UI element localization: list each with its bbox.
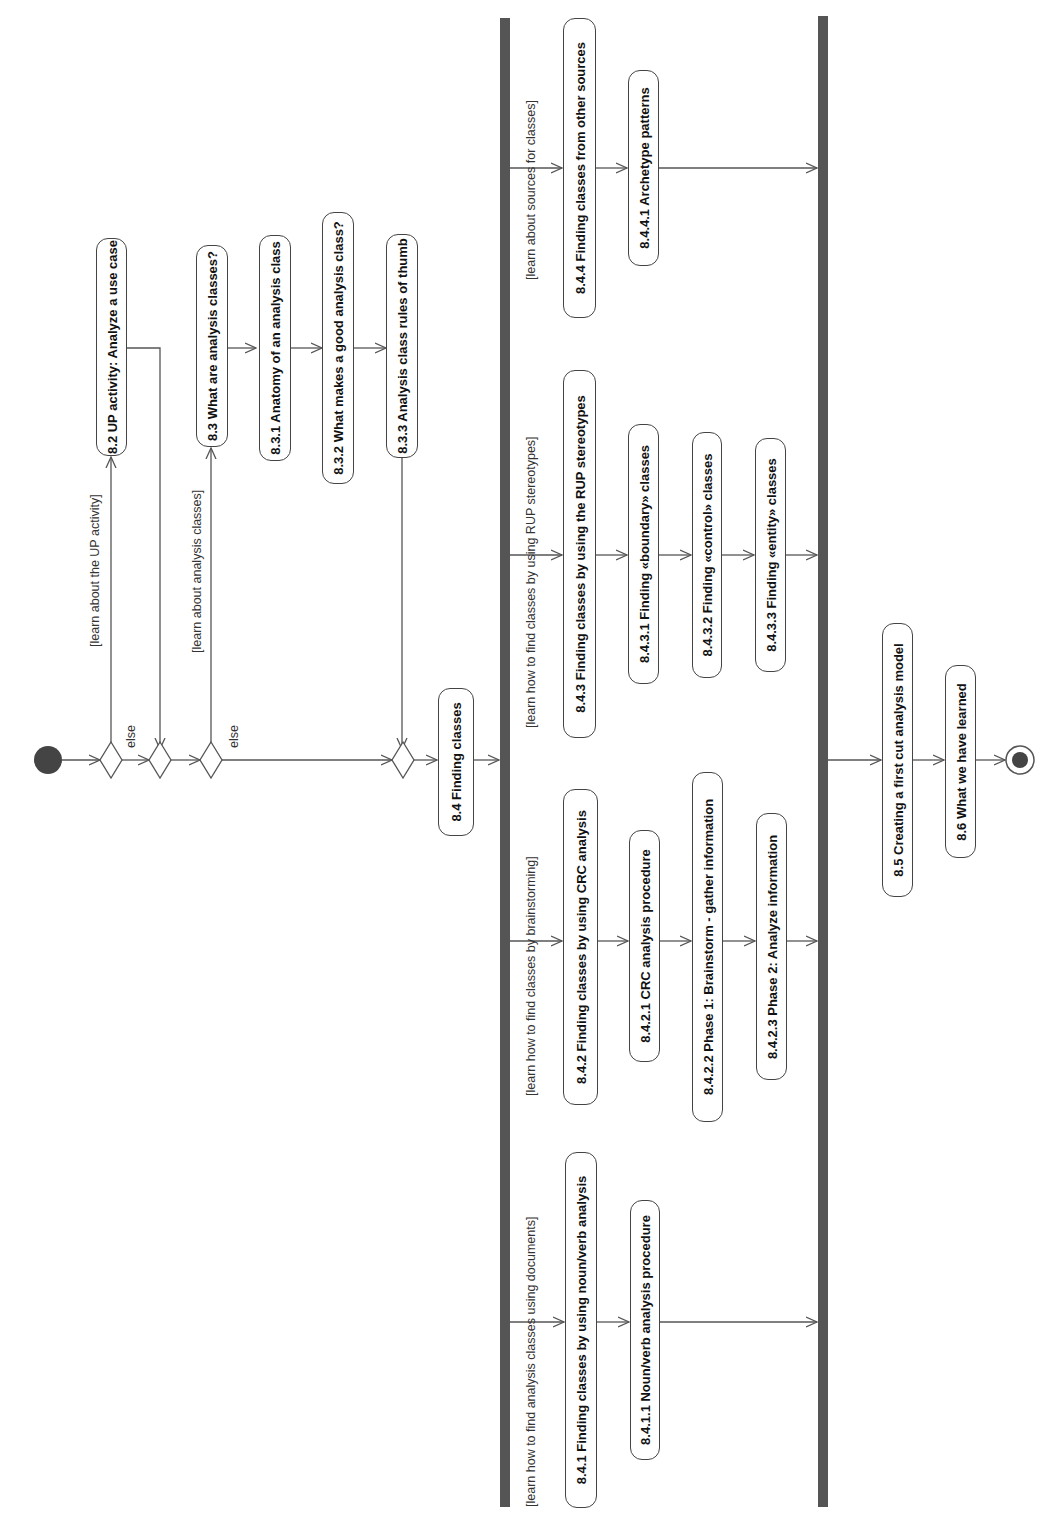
activity-8-4-2-2[interactable]: 8.4.2.2 Phase 1: Brainstorm - gather inf… bbox=[692, 772, 723, 1122]
activity-8-3-2[interactable]: 8.3.2 What makes a good analysis class? bbox=[322, 212, 354, 484]
guard-up-activity: [learn about the UP activity] bbox=[88, 494, 102, 647]
decision-node-up bbox=[100, 742, 122, 778]
activity-8-4-4[interactable]: 8.4.4 Finding classes from other sources bbox=[563, 18, 596, 318]
decision-node-analysis bbox=[200, 742, 222, 778]
activity-8-4-1[interactable]: 8.4.1 Finding classes by using noun/verb… bbox=[565, 1152, 597, 1508]
fork-bar bbox=[500, 18, 510, 1507]
final-node bbox=[1012, 752, 1028, 768]
activity-8-4-2-3[interactable]: 8.4.2.3 Phase 2: Analyze information bbox=[756, 813, 787, 1080]
join-bar bbox=[818, 16, 828, 1507]
activity-8-2[interactable]: 8.2 UP activity: Analyze a use case bbox=[96, 238, 127, 456]
activity-8-4-2-1[interactable]: 8.4.2.1 CRC analysis procedure bbox=[629, 830, 660, 1062]
guard-sources: [learn about sources for classes] bbox=[524, 100, 538, 280]
activity-8-4-3-3[interactable]: 8.4.3.3 Finding «entity» classes bbox=[755, 438, 786, 672]
activity-8-3-1[interactable]: 8.3.1 Anatomy of an analysis class bbox=[259, 235, 291, 461]
activity-8-4-3[interactable]: 8.4.3 Finding classes by using the RUP s… bbox=[563, 370, 596, 738]
guard-rup-stereotypes: [learn how to find classes by using RUP … bbox=[524, 436, 538, 728]
activity-8-3[interactable]: 8.3 What are analysis classes? bbox=[196, 245, 228, 447]
guard-documents: [learn how to find analysis classes usin… bbox=[524, 1217, 538, 1507]
activity-8-4-4-1[interactable]: 8.4.4.1 Archetype patterns bbox=[628, 70, 659, 266]
merge-node-analysis bbox=[392, 742, 414, 778]
activity-8-5[interactable]: 8.5 Creating a first cut analysis model bbox=[882, 623, 913, 897]
activity-8-4-3-2[interactable]: 8.4.3.2 Finding «control» classes bbox=[692, 432, 722, 678]
guard-else-1: else bbox=[124, 725, 138, 748]
initial-node bbox=[34, 746, 62, 774]
guard-brainstorming: [learn how to find classes by brainstorm… bbox=[524, 856, 538, 1096]
activity-8-4-3-1[interactable]: 8.4.3.1 Finding «boundary» classes bbox=[628, 424, 659, 684]
guard-analysis-classes: [learn about analysis classes] bbox=[190, 490, 204, 653]
activity-8-3-3[interactable]: 8.3.3 Analysis class rules of thumb bbox=[386, 234, 418, 458]
activity-8-4-1-1[interactable]: 8.4.1.1 Noun/verb analysis procedure bbox=[630, 1200, 660, 1460]
activity-8-4[interactable]: 8.4 Finding classes bbox=[438, 688, 474, 836]
guard-else-2: else bbox=[227, 725, 241, 748]
merge-node-up bbox=[149, 742, 171, 778]
activity-8-4-2[interactable]: 8.4.2 Finding classes by using CRC analy… bbox=[563, 789, 598, 1105]
activity-8-6[interactable]: 8.6 What we have learned bbox=[945, 665, 976, 858]
